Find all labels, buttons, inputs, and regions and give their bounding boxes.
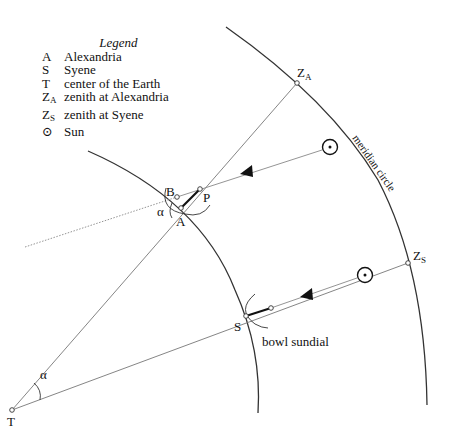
sun-ray-syene xyxy=(271,278,357,308)
label-a: A xyxy=(176,214,186,229)
angle-arc-alexandria xyxy=(170,203,172,218)
label-b: B xyxy=(166,184,175,199)
line-t-za xyxy=(12,83,297,410)
label-zs: ZS xyxy=(413,248,426,265)
label-p: P xyxy=(203,190,210,205)
point-t xyxy=(10,408,15,413)
dotted-extension xyxy=(25,197,177,247)
angle-arc-center xyxy=(34,383,40,400)
sun-icon xyxy=(323,140,338,155)
label-alpha-a: α xyxy=(157,204,164,219)
eratosthenes-diagram: A B P α S T α bowl sundial ZA ZS meridia… xyxy=(0,0,450,438)
point-a xyxy=(179,206,184,211)
label-s: S xyxy=(234,319,241,334)
line-t-zs xyxy=(12,263,408,410)
label-alpha-t: α xyxy=(40,367,47,382)
point-za xyxy=(295,81,300,86)
point-syene-gnomon-tip xyxy=(269,306,274,311)
label-t: T xyxy=(7,414,15,429)
point-zs xyxy=(406,261,411,266)
label-meridian: meridian circle xyxy=(350,132,398,193)
label-za: ZA xyxy=(297,65,312,82)
label-sundial: bowl sundial xyxy=(262,334,329,349)
arrow-icon xyxy=(300,288,313,300)
point-p xyxy=(198,187,203,192)
point-s xyxy=(244,314,249,319)
point-b xyxy=(175,195,180,200)
arrow-icon xyxy=(240,165,253,177)
sun-icon xyxy=(358,268,373,283)
